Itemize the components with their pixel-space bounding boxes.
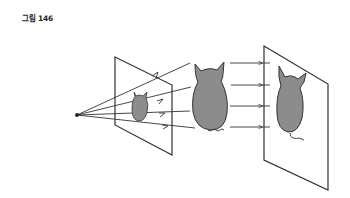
eye-point <box>75 113 79 117</box>
projected-cat <box>277 66 306 132</box>
small-cat-image <box>132 92 148 121</box>
projected-cat-tail <box>290 133 304 140</box>
cat-object <box>193 62 228 130</box>
projection-diagram <box>0 0 350 198</box>
